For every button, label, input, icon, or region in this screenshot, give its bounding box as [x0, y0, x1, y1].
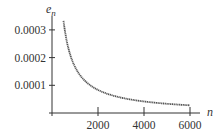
- x-axis-label: n: [207, 105, 213, 119]
- x-tick-label: 6000: [179, 119, 202, 131]
- x-tick-label: 4000: [133, 119, 156, 131]
- data-series: [64, 21, 191, 106]
- curve: [64, 21, 191, 106]
- y-tick-label: 0.0003: [14, 24, 46, 36]
- chart: en 0.00010.00020.0003 n 200040006000: [0, 0, 223, 134]
- y-tick-label: 0.0001: [14, 79, 46, 91]
- y-tick-label: 0.0002: [14, 52, 46, 64]
- y-axis-label: en: [46, 2, 56, 18]
- y-axis: en 0.00010.00020.0003: [14, 2, 56, 116]
- x-tick-label: 2000: [87, 119, 110, 131]
- x-axis: n 200040006000: [49, 105, 213, 131]
